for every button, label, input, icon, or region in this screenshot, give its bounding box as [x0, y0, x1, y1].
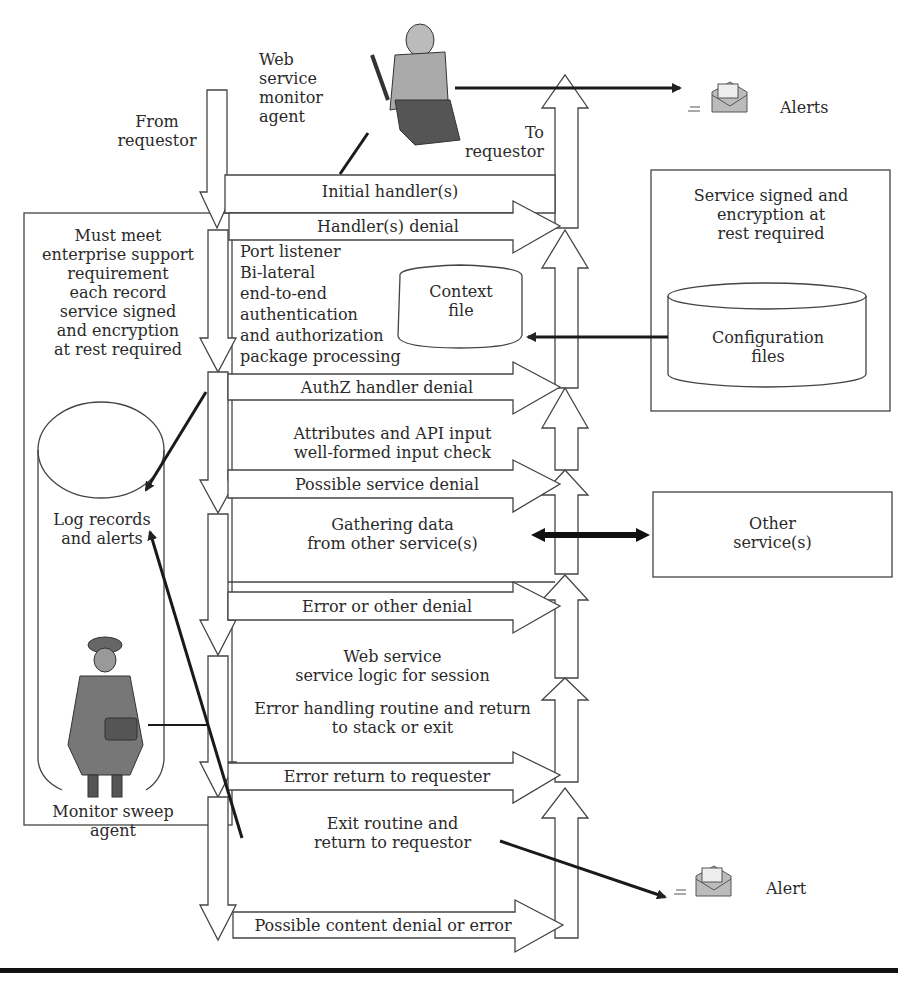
web-service-monitor-agent-label: Web service monitor agent [259, 50, 323, 126]
flow-label-authz-denial: AuthZ handler denial [228, 378, 546, 397]
log-cylinder-top [38, 402, 164, 498]
bottom-rule [0, 968, 898, 973]
mail-envelope-icon [688, 82, 747, 112]
mail-envelope-icon [674, 866, 731, 896]
exit-routine-label: Exit routine and return to requestor [230, 814, 555, 852]
alert-label: Alert [766, 879, 806, 898]
port-listener-label: Port listener Bi-lateral end-to-end auth… [240, 241, 401, 367]
to-log-connector [146, 392, 206, 490]
to-requestor-label: To requestor [460, 123, 544, 161]
other-services-label: Other service(s) [653, 514, 892, 552]
attributes-check-label: Attributes and API input well-formed inp… [230, 424, 555, 462]
flow-label-handlers-denial: Handler(s) denial [229, 217, 547, 236]
flow-label-error-denial: Error or other denial [228, 597, 546, 616]
up-arrow-2 [542, 230, 588, 388]
detective-icon [68, 637, 143, 797]
configuration-files-label: Configuration files [670, 328, 866, 366]
person-with-tool-icon [372, 24, 460, 145]
context-file-label: Context file [400, 282, 522, 320]
flow-label-initial-handlers: Initial handler(s) [225, 182, 555, 201]
config-cylinder-top [668, 283, 866, 309]
monitor-sweep-agent-label: Monitor sweep agent [28, 802, 198, 840]
alerts-label: Alerts [780, 98, 828, 117]
error-handling-label: Error handling routine and return to sta… [230, 699, 555, 737]
from-requestor-label: From requestor [112, 112, 202, 150]
service-signed-label: Service signed and encryption at rest re… [660, 186, 882, 243]
gathering-data-label: Gathering data from other service(s) [230, 515, 555, 553]
log-records-label: Log records and alerts [40, 510, 164, 548]
flow-label-content-denial: Possible content denial or error [233, 916, 533, 935]
monitor-agent-connector [340, 133, 368, 174]
web-service-logic-label: Web service service logic for session [230, 647, 555, 685]
flow-label-service-denial: Possible service denial [228, 475, 546, 494]
flow-label-error-return: Error return to requester [228, 767, 546, 786]
enterprise-requirement-label: Must meet enterprise support requirement… [28, 226, 208, 359]
